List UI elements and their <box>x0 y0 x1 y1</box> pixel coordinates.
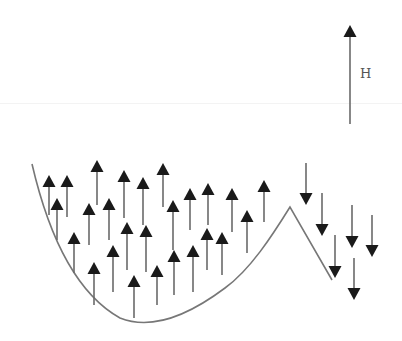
down-arrow-icon <box>348 258 361 300</box>
down-arrows-group <box>300 163 379 300</box>
field-arrow-h <box>344 25 357 124</box>
up-arrow-icon <box>201 228 214 270</box>
down-arrow-icon <box>346 205 359 248</box>
up-arrow-icon <box>121 222 134 270</box>
up-arrow-icon <box>91 160 104 205</box>
down-arrow-icon <box>366 215 379 257</box>
up-arrow-icon <box>137 177 150 225</box>
magnetization-diagram <box>0 0 402 341</box>
up-arrow-icon <box>226 188 239 232</box>
up-arrow-icon <box>167 200 180 250</box>
up-arrow-icon <box>184 188 197 230</box>
up-arrow-icon <box>187 245 200 292</box>
field-label-h: H <box>360 66 371 81</box>
up-arrow-icon <box>241 210 254 253</box>
up-arrow-icon <box>118 170 131 218</box>
up-arrow-icon <box>258 180 271 222</box>
up-arrow-icon <box>202 183 215 225</box>
up-arrow-icon <box>103 198 116 240</box>
up-arrow-icon <box>151 265 164 305</box>
up-arrow-icon <box>51 198 64 240</box>
up-arrow-icon <box>68 232 81 273</box>
up-arrow-icon <box>128 275 141 318</box>
up-arrows-group <box>43 160 271 318</box>
up-arrow-icon <box>216 232 229 275</box>
up-arrow-icon <box>107 245 120 292</box>
down-arrow-icon <box>300 163 313 205</box>
down-arrow-icon <box>316 193 329 236</box>
up-arrow-icon <box>83 203 96 245</box>
field-arrow-icon <box>344 25 357 124</box>
up-arrow-icon <box>140 225 153 272</box>
up-arrow-icon <box>157 163 170 207</box>
up-arrow-icon <box>88 262 101 305</box>
up-arrow-icon <box>61 175 74 217</box>
down-arrow-icon <box>329 235 342 278</box>
up-arrow-icon <box>168 250 181 295</box>
